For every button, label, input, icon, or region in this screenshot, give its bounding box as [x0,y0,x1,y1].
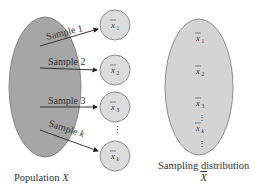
population-caption: Population X [14,172,69,183]
dist-ellipsis-2: ⋮ [198,139,206,148]
sample-mean-circle-2: x 2 [100,55,130,85]
svg-text:1: 1 [202,38,205,44]
svg-text:x: x [110,20,115,30]
sample-mean-circle-3: x 3 [100,92,130,122]
svg-text:3: 3 [117,107,120,113]
dist-ellipsis-1: ⋮ [198,113,206,122]
sample-mean-circle-k: x k [100,141,130,171]
sampling-distribution-caption: Sampling distribution X [158,160,249,184]
svg-text:x: x [195,123,200,133]
ellipsis-dots: ⋮ [113,125,122,135]
svg-text:x: x [195,98,200,108]
svg-text:2: 2 [117,70,120,76]
svg-text:x: x [110,65,115,75]
svg-text:x: x [195,66,200,76]
svg-text:1: 1 [117,25,120,31]
svg-text:x: x [110,102,115,112]
svg-text:3: 3 [202,103,205,109]
svg-text:2: 2 [202,71,205,77]
sample-mean-circle-1: x 1 [100,10,130,40]
population-ellipse [9,17,81,157]
svg-text:x: x [110,151,115,161]
sample-2-label: Sample 2 [48,56,86,67]
svg-text:x: x [195,33,200,43]
sample-3-label: Sample 3 [48,95,86,106]
